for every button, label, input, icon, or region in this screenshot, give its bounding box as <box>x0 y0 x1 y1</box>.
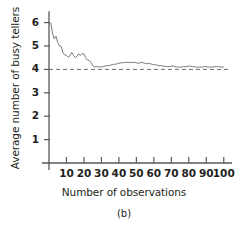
data-series <box>51 23 224 67</box>
plot-area <box>0 0 248 229</box>
series-line <box>51 23 224 67</box>
figure-panel-b: Average number of busy tellers Number of… <box>0 0 248 229</box>
axes <box>42 11 232 170</box>
